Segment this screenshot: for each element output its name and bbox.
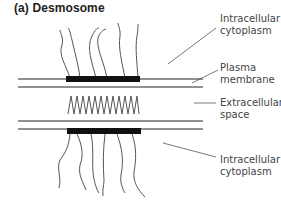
bottom-intermediate-filaments [59, 134, 145, 197]
cadherin-zigzag [68, 96, 139, 114]
label-line: cytoplasm [220, 25, 280, 37]
label-intracellular-cytoplasm-bottom: Intracellular cytoplasm [220, 154, 280, 178]
label-line: Extracellular [220, 97, 281, 109]
label-line: cytoplasm [220, 166, 280, 178]
label-line: Intracellular [220, 13, 280, 25]
label-leader-lines [163, 28, 218, 157]
top-dense-plaque [66, 76, 140, 82]
label-extracellular-space: Extracellular space [220, 97, 281, 121]
label-intracellular-cytoplasm-top: Intracellular cytoplasm [220, 13, 280, 37]
label-plasma-membrane: Plasma membrane [220, 62, 275, 86]
top-intermediate-filaments [60, 23, 138, 78]
label-line: space [220, 109, 281, 121]
bottom-dense-plaque [67, 128, 141, 134]
bottom-plasma-membrane [18, 121, 203, 129]
label-line: membrane [220, 74, 275, 86]
label-line: Plasma [220, 62, 275, 74]
label-line: Intracellular [220, 154, 280, 166]
